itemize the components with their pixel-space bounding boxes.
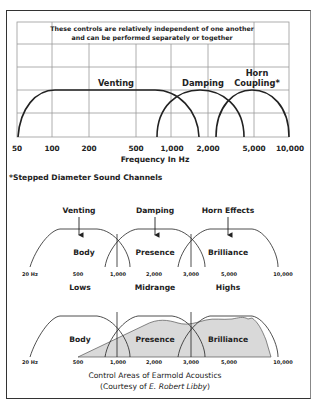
svg-text:3,000: 3,000 xyxy=(183,271,199,277)
top-x-ticks: 50 100 200 500 1,000 2,000 5,000 10,000 xyxy=(12,144,304,153)
band-highs: Highs xyxy=(216,283,241,292)
svg-text:5,000: 5,000 xyxy=(221,271,237,277)
svg-text:10,000: 10,000 xyxy=(273,359,293,365)
svg-text:1,000: 1,000 xyxy=(110,359,126,365)
svg-text:1,000: 1,000 xyxy=(110,271,126,277)
svg-text:2,000: 2,000 xyxy=(146,271,162,277)
region-presence: Presence xyxy=(135,248,174,257)
svg-text:100: 100 xyxy=(44,144,59,153)
region-body: Body xyxy=(73,248,94,257)
control-horn-effects: Horn Effects xyxy=(202,206,255,215)
venting-label: Venting xyxy=(98,78,134,88)
svg-text:10,000: 10,000 xyxy=(276,144,304,153)
svg-text:1,000: 1,000 xyxy=(160,144,183,153)
note-line-2: and can be performed separately or toget… xyxy=(71,34,233,42)
svg-text:3,000: 3,000 xyxy=(183,359,199,365)
svg-text:500: 500 xyxy=(73,271,84,277)
band-lows: Lows xyxy=(69,283,91,292)
band-midrange: Midrange xyxy=(135,283,175,292)
caption-line-2: (Courtesy of E. Robert Libby) xyxy=(100,382,210,391)
svg-text:20 Hz: 20 Hz xyxy=(22,271,38,277)
svg-text:500: 500 xyxy=(73,359,84,365)
svg-text:200: 200 xyxy=(81,144,96,153)
svg-text:20 Hz: 20 Hz xyxy=(22,359,38,365)
caption-line-1: Control Areas of Earmold Acoustics xyxy=(88,371,221,380)
horn-label: Horn xyxy=(246,68,269,78)
control-venting: Venting xyxy=(62,206,95,215)
x-axis-label: Frequency In Hz xyxy=(121,155,190,164)
footnote: *Stepped Diameter Sound Channels xyxy=(9,173,163,182)
region-body-2: Body xyxy=(69,335,90,344)
middle-x-ticks: 20 Hz 500 1,000 2,000 3,000 5,000 10,000 xyxy=(22,271,293,277)
svg-text:2,000: 2,000 xyxy=(196,144,219,153)
damping-label: Damping xyxy=(182,78,224,88)
svg-text:5,000: 5,000 xyxy=(221,359,237,365)
control-damping: Damping xyxy=(136,206,174,215)
region-brilliance-2: Brilliance xyxy=(208,335,248,344)
svg-text:10,000: 10,000 xyxy=(273,271,293,277)
svg-text:50: 50 xyxy=(12,144,22,153)
svg-text:5,000: 5,000 xyxy=(242,144,265,153)
venting-curve xyxy=(18,90,199,137)
horn-coupling-curve xyxy=(216,90,289,137)
earmold-acoustics-figure: These controls are relatively independen… xyxy=(0,0,313,406)
bottom-x-ticks: 20 Hz 500 1,000 2,000 3,000 5,000 10,000 xyxy=(22,359,293,365)
svg-text:2,000: 2,000 xyxy=(146,359,162,365)
region-brilliance: Brilliance xyxy=(208,248,248,257)
coupling-label: Coupling* xyxy=(234,78,280,88)
svg-text:500: 500 xyxy=(128,144,143,153)
note-line-1: These controls are relatively independen… xyxy=(50,25,254,33)
region-presence-2: Presence xyxy=(135,335,174,344)
